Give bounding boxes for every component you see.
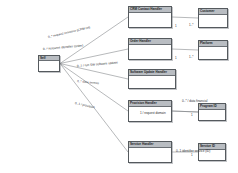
edge-e-root-provision (60, 64, 128, 112)
node-orders[interactable]: Order Handler (128, 38, 172, 60)
node-title-crm: CRM Contact Handler (129, 7, 168, 12)
node-programid[interactable]: Program ID (198, 103, 226, 121)
edge-e-root-crm (60, 17, 128, 64)
edge-label-e-provision-programid: 1 / request domain (140, 111, 166, 115)
node-body-root (39, 61, 59, 71)
node-title-programid: Program ID (199, 104, 223, 109)
node-body-software (129, 76, 175, 88)
edge-label-e-root-provision: 0..* data access (77, 79, 99, 85)
edge-label-e-root-software: 0..1 / run SW software update (77, 60, 118, 68)
node-title-root: Self (39, 56, 57, 61)
edge-e-orders-platform (172, 49, 198, 50)
cardinality-c-orders-right: 1 (175, 56, 177, 60)
edge-label-e-root-crm: 0..* request resource (CRM ref) (48, 25, 91, 39)
node-title-provision: Provision Handler (129, 101, 168, 106)
node-software[interactable]: Software Update Handler (128, 69, 176, 89)
cardinality-c-serviceid-left: 1 (191, 153, 193, 157)
node-body-programid (199, 110, 225, 120)
edge-label-e-root-orders: 0..* resource identifier (order) (43, 43, 83, 50)
node-title-platform: Platform (199, 41, 225, 46)
node-body-service (129, 148, 171, 162)
cardinality-c-customer-left: 1..* (189, 23, 194, 27)
node-body-platform (199, 47, 227, 59)
node-title-service: Service Handler (129, 142, 168, 147)
node-platform[interactable]: Platform (198, 40, 228, 60)
diagram-canvas: SelfCRM Contact HandlerCustomerOrder Han… (0, 0, 238, 173)
cardinality-c-programid-left: 1 (191, 113, 193, 117)
node-body-orders (129, 45, 171, 59)
edge-e-provision-upper (172, 111, 198, 112)
node-body-crm (129, 13, 171, 27)
node-customer[interactable]: Customer (198, 8, 228, 28)
node-service[interactable]: Service Handler (128, 141, 172, 163)
node-root[interactable]: Self (38, 55, 60, 72)
cardinality-c-crm-right: 1 (175, 24, 177, 28)
cardinality-c-platform-left: 1..* (189, 55, 194, 59)
edge-label-e-provision-upper: 0..* / data financial (182, 99, 207, 103)
edge-e-crm-customer (172, 17, 198, 18)
edge-label-e-service-serviceid: 0..1 identifier service (ID) (176, 149, 210, 153)
node-crm[interactable]: CRM Contact Handler (128, 6, 172, 28)
node-title-software: Software Update Handler (129, 70, 171, 75)
node-body-customer (199, 15, 227, 27)
node-title-customer: Customer (199, 9, 225, 14)
edge-label-e-root-service: 0..1 / provision (75, 101, 96, 109)
edge-e-provision-programid (172, 111, 198, 112)
node-title-orders: Order Handler (129, 39, 168, 44)
